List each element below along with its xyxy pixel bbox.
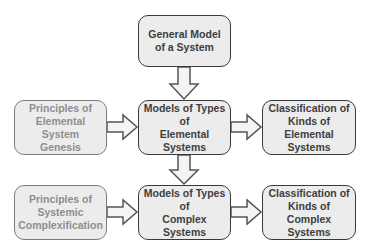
arrow-down-icon bbox=[170, 155, 198, 184]
node-principles-elemental-genesis: Principles of Elemental System Genesis bbox=[14, 100, 107, 155]
node-label: Classification of Kinds of Complex Syste… bbox=[267, 187, 351, 239]
node-general-model: General Model of a System bbox=[138, 15, 231, 67]
node-principles-systemic-complexification: Principles of Systemic Complexification bbox=[14, 185, 107, 240]
node-classification-elemental-systems: Classification of Kinds of Elemental Sys… bbox=[262, 100, 356, 155]
node-classification-complex-systems: Classification of Kinds of Complex Syste… bbox=[262, 185, 356, 240]
node-models-elemental-systems: Models of Types of Elemental Systems bbox=[138, 100, 231, 155]
node-label: Principles of Elemental System Genesis bbox=[19, 102, 102, 154]
node-label: Classification of Kinds of Elemental Sys… bbox=[267, 102, 351, 154]
arrow-down-icon bbox=[170, 67, 198, 99]
diagram-canvas: General Model of a System Principles of … bbox=[0, 0, 365, 251]
arrow-right-icon bbox=[107, 115, 137, 139]
node-label: Models of Types of Complex Systems bbox=[143, 187, 226, 239]
arrow-right-icon bbox=[231, 200, 261, 224]
node-label: General Model of a System bbox=[148, 28, 220, 54]
node-label: Models of Types of Elemental Systems bbox=[143, 102, 226, 154]
arrow-right-icon bbox=[231, 115, 261, 139]
node-label: Principles of Systemic Complexification bbox=[18, 193, 103, 232]
node-models-complex-systems: Models of Types of Complex Systems bbox=[138, 185, 231, 240]
arrow-right-icon bbox=[107, 200, 137, 224]
